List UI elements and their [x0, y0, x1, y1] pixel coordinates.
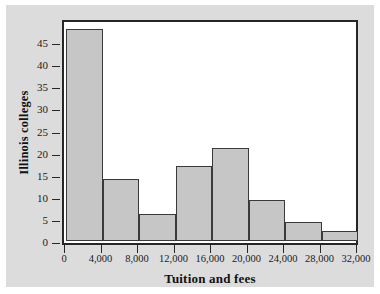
y-axis-tick: [52, 66, 60, 67]
y-axis-tick: [52, 199, 60, 200]
y-axis-tick: [52, 88, 60, 89]
x-axis-tick: [283, 245, 284, 253]
histogram-figure: 051015202530354045 04,0008,00012,00016,0…: [0, 0, 380, 294]
histogram-bar: [285, 222, 322, 241]
histogram-bar: [103, 179, 140, 241]
x-axis-tick: [137, 245, 138, 253]
x-axis-tick: [356, 245, 357, 253]
y-axis-tick: [52, 155, 60, 156]
y-axis-tick: [52, 243, 60, 244]
y-axis-tick-label: 5: [8, 215, 48, 226]
y-axis-tick: [52, 133, 60, 134]
histogram-bar: [322, 231, 359, 241]
y-axis-tick: [52, 110, 60, 111]
x-axis-tick: [320, 245, 321, 253]
histogram-bar: [249, 200, 286, 241]
histogram-bar: [212, 148, 249, 241]
histogram-bar: [66, 29, 103, 241]
y-axis-title: Illinois colleges: [17, 53, 32, 213]
x-axis-tick: [174, 245, 175, 253]
plot-frame: [62, 20, 358, 245]
histogram-bar: [176, 166, 213, 241]
y-axis-tick: [52, 221, 60, 222]
x-axis-tick: [64, 245, 65, 253]
histogram-bar: [139, 214, 176, 241]
y-axis-tick-label: 45: [8, 38, 48, 49]
y-axis-tick-label: 0: [8, 237, 48, 248]
y-axis-tick: [52, 177, 60, 178]
x-axis-tick-label: 32,000: [328, 254, 380, 265]
x-axis-title: Tuition and fees: [62, 271, 358, 287]
x-axis-tick: [247, 245, 248, 253]
histogram-bars: [64, 22, 356, 243]
x-axis-tick: [101, 245, 102, 253]
x-axis-tick: [210, 245, 211, 253]
y-axis-tick: [52, 44, 60, 45]
